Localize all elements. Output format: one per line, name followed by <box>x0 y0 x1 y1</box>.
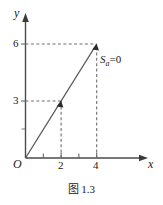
y-axis-arrowhead <box>22 13 29 22</box>
origin-label: O <box>13 158 22 170</box>
annotation-rest: =0 <box>110 53 122 65</box>
y-axis-label: y <box>14 7 19 19</box>
x-axis-arrowhead <box>139 155 148 161</box>
x-tick-label-2: 2 <box>58 160 64 171</box>
annotation-sa-equals-zero: Sa=0 <box>100 54 121 68</box>
figure-container: y x O 6 3 2 4 Sa=0 图1.3 <box>0 0 163 205</box>
y-tick-label-3: 3 <box>13 95 19 106</box>
caption-number: 1.3 <box>81 183 95 195</box>
figure-caption: 图1.3 <box>0 180 163 196</box>
coordinate-plot <box>0 0 163 175</box>
y-tick-label-6: 6 <box>13 38 19 49</box>
caption-prefix: 图 <box>68 183 79 195</box>
x-axis-label: x <box>148 158 153 170</box>
x-tick-label-4: 4 <box>93 160 99 171</box>
